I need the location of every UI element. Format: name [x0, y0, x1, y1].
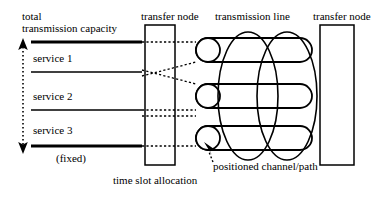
label-total-capacity-line1: total — [22, 10, 42, 22]
label-transfer-node-right: transfer node — [313, 10, 371, 22]
label-service-3: service 3 — [33, 124, 72, 136]
label-transmission-line: transmission line — [215, 10, 290, 22]
transfer-node-right-box — [320, 25, 354, 165]
label-positioned-channel-path: positioned channel/path — [213, 160, 318, 172]
label-service-1: service 1 — [33, 52, 72, 64]
label-time-slot-allocation: time slot allocation — [113, 174, 197, 186]
label-total-capacity-line2: transmission capacity — [22, 22, 117, 34]
channel-1-aperture — [196, 38, 220, 62]
transfer-node-left-box — [145, 25, 175, 165]
channel-2-aperture — [196, 84, 220, 108]
transmission-line-channels — [196, 38, 312, 150]
total-transmission-capacity-arrow — [18, 38, 28, 154]
channel-1 — [196, 38, 312, 62]
transmission-capacity-diagram: total transmission capacity service 1 se… — [0, 0, 388, 197]
label-transfer-node-left: transfer node — [141, 10, 199, 22]
channel-2 — [196, 84, 312, 108]
label-fixed: (fixed) — [56, 152, 86, 164]
label-service-2: service 2 — [33, 90, 72, 102]
channel-3 — [196, 126, 312, 150]
